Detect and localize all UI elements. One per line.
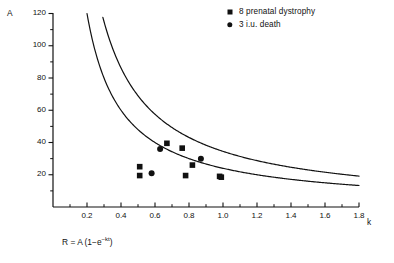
y-tick-label: 80 xyxy=(20,73,46,82)
x-tick-label: 0.2 xyxy=(74,211,100,220)
data-point-square xyxy=(183,173,189,179)
x-tick-label: 1.8 xyxy=(346,211,372,220)
upper-boundary-curve xyxy=(103,17,359,176)
data-point-circle xyxy=(149,170,155,176)
legend-item-iu-death: 3 i.u. death xyxy=(224,19,315,32)
x-tick-label: 1.2 xyxy=(244,211,270,220)
y-tick-label: 60 xyxy=(20,105,46,114)
data-point-square xyxy=(190,162,196,168)
x-tick-label: 1.6 xyxy=(312,211,338,220)
x-tick-label: 0.6 xyxy=(142,211,168,220)
x-tick-label: 1.0 xyxy=(210,211,236,220)
data-point-square xyxy=(164,141,170,147)
lower-boundary-curve xyxy=(87,14,359,186)
y-axis-label: A xyxy=(7,8,13,18)
data-points xyxy=(137,141,224,180)
data-point-square xyxy=(179,145,185,151)
formula-annotation: R = A (1−e−kt) xyxy=(62,236,113,247)
x-tick-label: 0.8 xyxy=(176,211,202,220)
square-marker-icon xyxy=(224,6,235,19)
circle-marker-icon xyxy=(224,19,235,32)
x-tick-label: 0.4 xyxy=(108,211,134,220)
axes xyxy=(53,13,359,207)
y-tick-label: 120 xyxy=(20,8,46,17)
data-point-square xyxy=(219,174,225,180)
data-point-square xyxy=(137,173,143,179)
x-axis-major-ticks xyxy=(87,203,359,208)
chart-figure xyxy=(0,0,394,263)
y-tick-label: 40 xyxy=(20,137,46,146)
data-point-square xyxy=(137,164,143,170)
legend-item-label: 8 prenatal dystrophy xyxy=(239,6,315,19)
x-tick-label: 1.4 xyxy=(278,211,304,220)
chart-legend: 8 prenatal dystrophy 3 i.u. death xyxy=(224,6,315,31)
data-point-circle xyxy=(198,156,204,162)
y-tick-label: 20 xyxy=(20,169,46,178)
boundary-curves xyxy=(87,14,359,186)
data-point-circle xyxy=(157,146,163,152)
formula-exponent: −kt xyxy=(102,236,110,242)
y-tick-label: 100 xyxy=(20,40,46,49)
legend-item-prenatal-dystrophy: 8 prenatal dystrophy xyxy=(224,6,315,19)
legend-item-label: 3 i.u. death xyxy=(239,19,281,32)
